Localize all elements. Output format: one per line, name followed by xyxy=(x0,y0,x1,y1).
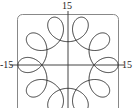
y-max-label: 15 xyxy=(62,1,72,11)
plot-area xyxy=(0,0,136,108)
x-max-label: 15 xyxy=(122,60,132,70)
x-min-label: -15 xyxy=(0,60,13,70)
